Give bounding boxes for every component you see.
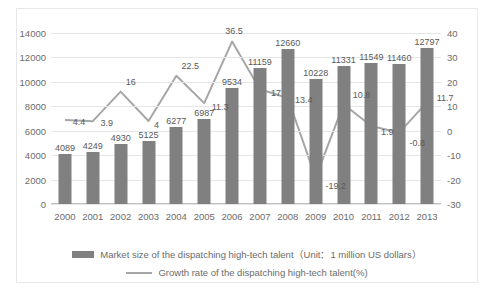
secondary-y-axis-tick-label: 40 xyxy=(447,28,458,39)
line-value-label: 13.4 xyxy=(295,95,313,105)
bar-value-label: 9534 xyxy=(222,77,242,87)
x-axis-tick-label: 2006 xyxy=(221,211,242,222)
legend-bar-swatch-icon xyxy=(72,251,94,258)
x-axis-tick-label: 2000 xyxy=(54,211,75,222)
secondary-y-axis-tick-label: 20 xyxy=(447,76,458,87)
bar-value-label: 5125 xyxy=(138,130,158,140)
x-axis-tick-label: 2007 xyxy=(249,211,270,222)
x-axis-tick-label: 2004 xyxy=(166,211,187,222)
bar xyxy=(58,154,71,204)
legend-line-swatch-icon xyxy=(126,272,152,274)
x-axis-tick-label: 2002 xyxy=(110,211,131,222)
legend-item-growth-rate: Growth rate of the dispatching high-tech… xyxy=(126,267,367,278)
gridline xyxy=(51,33,441,34)
plot-area: 02000400060008000100001200014000-30-20-1… xyxy=(51,33,441,204)
line-value-label: 16 xyxy=(126,77,136,87)
y-axis-tick-label: 14000 xyxy=(20,28,46,39)
gridline xyxy=(51,204,441,205)
y-axis-tick-label: 6000 xyxy=(25,125,46,136)
secondary-y-axis-tick-label: 30 xyxy=(447,52,458,63)
x-axis-tick-label: 2005 xyxy=(194,211,215,222)
secondary-y-axis-tick-label: -30 xyxy=(447,199,461,210)
bar-value-label: 4249 xyxy=(83,141,103,151)
y-axis-tick-label: 12000 xyxy=(20,52,46,63)
line-value-label: -19.2 xyxy=(325,181,346,191)
bar-value-label: 4089 xyxy=(55,143,75,153)
line-value-label: 22.5 xyxy=(182,61,200,71)
x-axis-line xyxy=(51,203,441,204)
line-value-label: 11.7 xyxy=(437,93,454,103)
x-axis-tick-label: 2010 xyxy=(333,211,354,222)
bar xyxy=(142,141,155,204)
y-axis-tick-label: 10000 xyxy=(20,76,46,87)
bar xyxy=(393,64,406,204)
x-axis-tick-label: 2009 xyxy=(305,211,326,222)
bar xyxy=(170,127,183,204)
legend-label-market-size: Market size of the dispatching high-tech… xyxy=(100,247,421,261)
line-value-label: 36.5 xyxy=(225,26,243,36)
secondary-y-axis-tick-label: -20 xyxy=(447,174,461,185)
line-value-label: 11.3 xyxy=(212,102,229,112)
x-axis-tick-label: 2013 xyxy=(416,211,437,222)
x-axis-tick-label: 2008 xyxy=(277,211,298,222)
line-value-label: 3.9 xyxy=(101,118,114,128)
bar-value-label: 11331 xyxy=(331,55,355,65)
bar xyxy=(114,144,127,204)
bar-value-label: 10228 xyxy=(303,68,328,78)
x-axis-tick-label: 2001 xyxy=(82,211,103,222)
x-axis-tick-label: 2003 xyxy=(138,211,159,222)
bar xyxy=(421,48,434,204)
legend-label-growth-rate: Growth rate of the dispatching high-tech… xyxy=(158,267,367,278)
bar xyxy=(281,49,294,204)
y-axis-tick-label: 4000 xyxy=(25,150,46,161)
gridline xyxy=(51,106,441,107)
bar-value-label: 11549 xyxy=(359,52,383,62)
secondary-y-axis-tick-label: 0 xyxy=(447,125,452,136)
bar-value-label: 12797 xyxy=(415,37,440,47)
bar-value-label: 12660 xyxy=(275,38,300,48)
line-value-label: -0.8 xyxy=(409,138,425,148)
chart-container: 02000400060008000100001200014000-30-20-1… xyxy=(16,8,478,283)
secondary-y-axis-tick-label: -10 xyxy=(447,150,461,161)
gridline xyxy=(51,82,441,83)
bar xyxy=(86,152,99,204)
y-axis-tick-label: 2000 xyxy=(25,174,46,185)
gridline xyxy=(51,155,441,156)
bar xyxy=(365,63,378,204)
y-axis-tick-label: 8000 xyxy=(25,101,46,112)
chart-legend: Market size of the dispatching high-tech… xyxy=(17,247,477,278)
line-value-label: 10.8 xyxy=(353,90,371,100)
line-value-label: 4 xyxy=(154,120,159,130)
bar-value-label: 4930 xyxy=(111,133,131,143)
line-value-label: 4.4 xyxy=(73,117,86,127)
bar-value-label: 11460 xyxy=(387,53,411,63)
gridline xyxy=(51,180,441,181)
y-axis-tick-label: 0 xyxy=(41,199,46,210)
x-axis-tick-label: 2012 xyxy=(389,211,410,222)
bar xyxy=(198,119,211,204)
x-axis-tick-label: 2011 xyxy=(361,211,381,222)
line-value-label: 1.9 xyxy=(381,127,394,137)
bar-value-label: 6277 xyxy=(166,116,186,126)
line-value-label: 17 xyxy=(271,88,281,98)
legend-item-market-size: Market size of the dispatching high-tech… xyxy=(72,247,421,261)
bar xyxy=(253,68,266,204)
bar-value-label: 11159 xyxy=(248,57,272,67)
